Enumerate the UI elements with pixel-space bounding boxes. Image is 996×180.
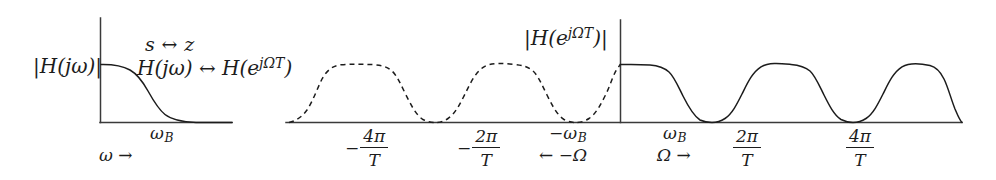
fraction-numerator: 2π: [733, 127, 761, 146]
tick-sign: −: [345, 140, 360, 157]
tick-sign: −: [457, 140, 472, 157]
tick-sign: −: [549, 123, 563, 143]
right-plot-x-axis-label-positive: Ω →: [657, 147, 691, 164]
right-plot-x-axis-label-negative: ← −Ω: [539, 147, 587, 164]
omega-symbol: ω: [150, 123, 164, 143]
fraction-denominator: T: [360, 150, 388, 169]
omega-b-subscript: B: [677, 131, 686, 145]
mapping-equation-part-b: ): [284, 56, 292, 80]
fraction-denominator: T: [472, 150, 500, 169]
fraction-bar: [360, 147, 388, 148]
fraction: 4π T: [846, 127, 874, 169]
right-plot-tick-neg-omega-b: −ωB: [549, 125, 587, 145]
right-plot-curve-positive-solid: [620, 63, 962, 122]
omega-symbol: ω: [563, 123, 577, 143]
omega-b-subscript: B: [578, 131, 587, 145]
mapping-equation-part-a: H(jω) ↔ H(e: [137, 56, 259, 80]
fraction-numerator: 2π: [472, 127, 500, 146]
fraction-numerator: 4π: [846, 127, 874, 146]
omega-b-subscript: B: [164, 131, 173, 145]
left-plot-x-axis-label: ω →: [99, 147, 133, 164]
right-y-label-exponent: jΩT: [568, 25, 593, 41]
left-plot-tick-omega-b: ωB: [150, 125, 173, 145]
mapping-equation-exponent: jΩT: [259, 55, 284, 71]
right-y-label-part-b: )|: [593, 26, 608, 50]
right-plot-tick-omega-b: ωB: [663, 125, 686, 145]
fraction-bar: [733, 147, 761, 148]
fraction: 4π T: [360, 127, 388, 169]
right-plot-tick-neg-4pi-over-T: − 4π T: [345, 127, 388, 169]
right-plot-y-axis-label: |H(ejΩT)|: [524, 26, 608, 48]
right-plot-tick-neg-2pi-over-T: − 2π T: [457, 127, 500, 169]
fraction-denominator: T: [733, 150, 761, 169]
fraction-numerator: 4π: [360, 127, 388, 146]
fraction-bar: [846, 147, 874, 148]
fraction-bar: [472, 147, 500, 148]
fraction: 2π T: [472, 127, 500, 169]
fraction-denominator: T: [846, 150, 874, 169]
mapping-equation-h-of-jw: H(jω) ↔ H(ejΩT): [137, 56, 292, 78]
fraction: 2π T: [733, 127, 761, 169]
mapping-equation-s-z: s ↔ z: [145, 35, 195, 54]
left-plot-y-axis-label: |H(jω)|: [33, 56, 102, 76]
figure-container: |H(jω)| s ↔ z H(jω) ↔ H(ejΩT) ωB ω → |H(…: [0, 0, 996, 180]
right-plot-tick-4pi-over-T: 4π T: [846, 127, 874, 169]
right-y-label-part-a: |H(e: [524, 26, 568, 50]
right-plot-axes: [286, 20, 962, 123]
right-plot-curve-negative-dashed: [289, 63, 620, 122]
omega-symbol: ω: [663, 123, 677, 143]
right-plot-tick-2pi-over-T: 2π T: [733, 127, 761, 169]
